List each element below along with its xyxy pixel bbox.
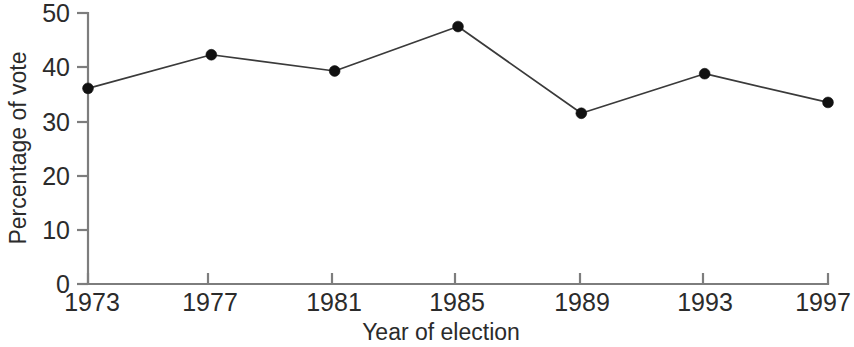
y-tick-label-40: 40 [42,53,70,81]
data-point [83,83,94,94]
x-tick-label-1981: 1981 [306,288,362,316]
axes [88,13,828,284]
line-chart: 50 40 30 20 10 0 1973 1977 1981 1985 198… [0,0,854,347]
y-axis-tick-labels: 50 40 30 20 10 0 [42,0,70,298]
y-tick-label-50: 50 [42,0,70,27]
x-axis-tick-labels: 1973 1977 1981 1985 1989 1993 1997 [64,288,851,316]
series-line-percentage-of-vote [88,27,828,114]
x-tick-label-1997: 1997 [795,288,851,316]
x-tick-label-1985: 1985 [429,288,485,316]
x-axis-title: Year of election [362,319,520,345]
data-point [576,108,587,119]
series-markers [83,21,834,119]
chart-figure: 50 40 30 20 10 0 1973 1977 1981 1985 198… [0,0,854,347]
y-tick-label-30: 30 [42,108,70,136]
x-tick-label-1993: 1993 [677,288,733,316]
y-tick-label-10: 10 [42,216,70,244]
x-axis-ticks [88,273,828,284]
data-point [699,68,710,79]
data-point [823,97,834,108]
x-tick-label-1973: 1973 [64,288,120,316]
data-series-group [83,21,834,119]
y-axis-ticks [77,13,88,284]
y-tick-label-20: 20 [42,162,70,190]
data-point [206,49,217,60]
x-tick-label-1977: 1977 [182,288,238,316]
x-tick-label-1989: 1989 [554,288,610,316]
y-axis-title: Percentage of vote [5,51,31,244]
data-point [453,21,464,32]
data-point [329,66,340,77]
